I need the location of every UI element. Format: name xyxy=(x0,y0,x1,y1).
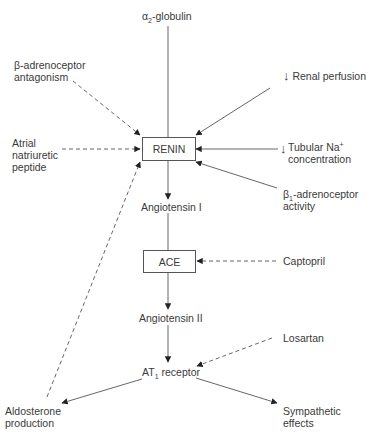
decrease-arrow-icon: ↓ xyxy=(280,143,287,155)
node-tubular-na: ↓ Tubular Na+ concentration xyxy=(280,141,351,165)
node-ace: ACE xyxy=(143,250,196,273)
node-aldosterone-production: Aldosterone production xyxy=(5,405,61,429)
edge-at1-aldosterone xyxy=(62,379,142,403)
node-at1-receptor: AT1 receptor xyxy=(142,366,200,378)
node-beta-antagonism: β-adrenoceptor antagonism xyxy=(14,59,85,83)
edge-renal-renin xyxy=(196,88,270,135)
node-sympathetic-effects: Sympathetic effects xyxy=(283,405,341,429)
node-atrial-natriuretic-peptide: Atrial natriuretic peptide xyxy=(12,137,58,173)
node-angiotensin-2: Angiotensin II xyxy=(139,312,203,324)
node-alpha2-globulin: α2-globulin xyxy=(142,10,192,22)
edge-at1-sympathetic xyxy=(196,378,277,403)
edge-aldosterone-renin xyxy=(47,162,140,397)
node-renal-perfusion: ↓ Renal perfusion xyxy=(283,70,366,82)
edge-beta1-renin xyxy=(196,162,277,188)
node-renin: RENIN xyxy=(142,137,196,161)
node-angiotensin-1: Angiotensin I xyxy=(141,201,202,213)
edge-losartan-at1 xyxy=(197,338,272,366)
node-beta1-activity: β1-adrenoceptor activity xyxy=(283,188,358,212)
node-losartan: Losartan xyxy=(283,332,324,344)
decrease-arrow-icon: ↓ xyxy=(283,68,290,83)
node-captopril: Captopril xyxy=(283,255,325,267)
edge-beta-antagonism-renin xyxy=(73,81,140,135)
